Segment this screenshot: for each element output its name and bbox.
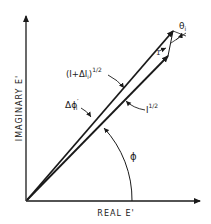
theta-indicator: [165, 31, 188, 50]
small-vector-label: 1: [156, 49, 160, 57]
vector-inner: [27, 56, 168, 200]
svg-text:I1/2: I1/2: [146, 102, 158, 115]
svg-text:θi: θi: [179, 21, 187, 32]
phi-label: ϕ: [130, 151, 137, 162]
theta-sub: i: [185, 25, 187, 32]
outer-vector-label: (I+ΔI: [66, 69, 87, 79]
outer-vector-exp: 1/2: [92, 66, 102, 73]
svg-text:Δϕ′i: Δϕ′i: [65, 98, 79, 111]
svg-text:(I+ΔIi)1/2: (I+ΔIi)1/2: [66, 66, 102, 80]
y-axis-label: IMAGINARY E': [15, 75, 24, 141]
svg-text:IMAGINARY E': IMAGINARY E': [15, 75, 24, 141]
svg-text:ϕ: ϕ: [130, 151, 137, 162]
phasor-diagram: IMAGINARY E' REAL E' (I+ΔIi)1/2 I1/2 Δϕ′…: [0, 0, 211, 224]
delta-phi-leader: [81, 108, 91, 117]
delta-phi-prime: ′: [77, 98, 79, 106]
svg-text:1: 1: [156, 49, 160, 57]
inner-vector-exp: 1/2: [149, 102, 159, 109]
x-axis-label: REAL E': [97, 209, 134, 218]
inner-label-leader: [126, 101, 145, 110]
phi-arc: [104, 128, 132, 201]
vector-outer: [27, 31, 173, 200]
outer-label-leader: [108, 75, 124, 88]
svg-text:REAL E': REAL E': [97, 209, 134, 218]
